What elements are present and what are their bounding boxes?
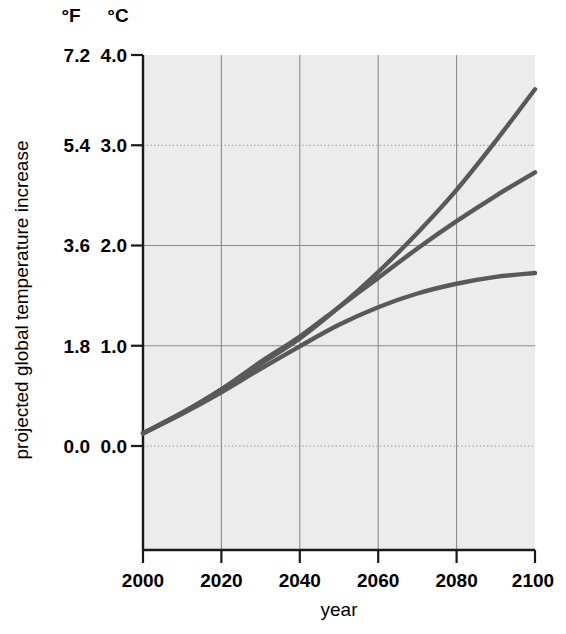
y-axis-celsius-labels: 4.0 3.0 2.0 1.0 0.0 <box>101 45 127 457</box>
x-label-2060: 2060 <box>357 570 399 591</box>
c-label-3-0: 3.0 <box>101 135 127 156</box>
x-label-2080: 2080 <box>435 570 477 591</box>
plot-area-background <box>143 55 535 550</box>
x-label-2020: 2020 <box>200 570 242 591</box>
c-label-1-0: 1.0 <box>101 336 127 357</box>
y-axis-title: projected global temperature increase <box>11 141 32 460</box>
x-label-2000: 2000 <box>122 570 164 591</box>
celsius-unit-header: °C <box>107 5 129 26</box>
f-label-1-8: 1.8 <box>64 336 90 357</box>
f-label-7-2: 7.2 <box>64 45 90 66</box>
temperature-projection-chart: °F °C 7.2 5.4 3.6 1.8 0.0 4.0 3.0 2.0 1.… <box>0 0 566 634</box>
x-axis-labels: 2000 2020 2040 2060 2080 2100 <box>122 570 554 591</box>
x-axis-ticks <box>143 550 535 563</box>
chart-container: °F °C 7.2 5.4 3.6 1.8 0.0 4.0 3.0 2.0 1.… <box>0 0 566 634</box>
f-label-0-0: 0.0 <box>64 436 90 457</box>
y-axis-fahrenheit-labels: 7.2 5.4 3.6 1.8 0.0 <box>64 45 91 457</box>
c-label-2-0: 2.0 <box>101 235 127 256</box>
c-label-0-0: 0.0 <box>101 436 127 457</box>
x-axis-title: year <box>321 599 359 620</box>
y-axis-ticks <box>131 55 143 446</box>
x-label-2040: 2040 <box>279 570 321 591</box>
fahrenheit-unit-header: °F <box>61 5 80 26</box>
f-label-5-4: 5.4 <box>64 135 91 156</box>
f-label-3-6: 3.6 <box>64 235 90 256</box>
c-label-4-0: 4.0 <box>101 45 127 66</box>
x-label-2100: 2100 <box>512 570 554 591</box>
